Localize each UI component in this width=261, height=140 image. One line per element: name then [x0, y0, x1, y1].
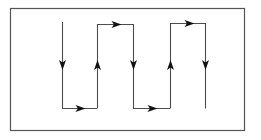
figure-frame	[11, 9, 245, 131]
serpentine-path-figure	[0, 0, 261, 140]
figure-container	[0, 0, 261, 140]
